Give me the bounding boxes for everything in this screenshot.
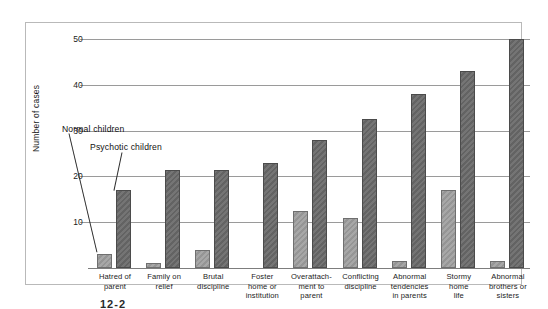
bar-psychotic[interactable]: [165, 170, 180, 268]
bar-normal[interactable]: [343, 218, 358, 268]
category-label-line: parent: [300, 291, 322, 300]
category-label-line: Abnormal: [393, 272, 426, 281]
category-label: Overattach-ment toparent: [283, 272, 339, 301]
category-label-line: institution: [246, 291, 279, 300]
bar-normal[interactable]: [441, 190, 456, 268]
figure-caption: 12-2: [100, 298, 126, 309]
y-axis-title: Number of cases: [31, 85, 41, 152]
annotation-psychotic-children: Psychotic children: [90, 142, 162, 152]
category-label: Abnormalbrothers orsisters: [480, 272, 536, 301]
bar-psychotic[interactable]: [312, 140, 327, 268]
bar-normal[interactable]: [195, 250, 210, 268]
annotation-normal-children: Normal children: [62, 124, 124, 134]
category-label-line: Foster: [251, 272, 273, 281]
category-label: Fosterhome orinstitution: [234, 272, 290, 301]
bar-normal[interactable]: [392, 261, 407, 268]
category-label-line: Overattach-: [291, 272, 332, 281]
bar-psychotic[interactable]: [263, 163, 278, 268]
category-label: Abnormaltendenciesin parents: [382, 272, 438, 301]
category-label-line: brothers or: [489, 282, 527, 291]
bar-psychotic[interactable]: [509, 39, 524, 268]
category-label-line: Family on: [147, 272, 181, 281]
category-label-line: Conflicting: [342, 272, 379, 281]
category-label-line: home: [449, 282, 468, 291]
y-axis-tick-label: 50: [73, 34, 83, 44]
category-label-line: Abnormal: [491, 272, 524, 281]
bar-group: Stormyhomelife: [441, 30, 481, 268]
bar-group: Fosterhome orinstitution: [244, 30, 284, 268]
bar-psychotic[interactable]: [214, 170, 229, 268]
y-axis-tick-label: 40: [73, 80, 83, 90]
bar-group: Brutaldiscipline: [195, 30, 235, 268]
x-axis-baseline: [88, 268, 530, 269]
category-label-line: relief: [156, 282, 173, 291]
figure-root: Number of cases 1020304050Hatred ofparen…: [0, 0, 548, 309]
bar-normal[interactable]: [293, 211, 308, 268]
category-label-line: home or: [248, 282, 277, 291]
category-label-line: discipline: [344, 282, 376, 291]
category-label-line: Stormy: [446, 272, 471, 281]
category-label-line: sisters: [497, 291, 520, 300]
category-label-line: life: [454, 291, 464, 300]
bar-group: Abnormaltendenciesin parents: [392, 30, 432, 268]
category-label-line: discipline: [197, 282, 229, 291]
bar-group: Conflictingdiscipline: [343, 30, 383, 268]
category-label-line: ment to: [298, 282, 324, 291]
bar-group: Overattach-ment toparent: [293, 30, 333, 268]
bar-normal[interactable]: [97, 254, 112, 268]
category-label: Stormyhomelife: [431, 272, 487, 301]
category-label-line: in parents: [392, 291, 426, 300]
category-label: Brutaldiscipline: [185, 272, 241, 291]
bar-normal[interactable]: [490, 261, 505, 268]
category-label-line: Brutal: [203, 272, 223, 281]
bar-psychotic[interactable]: [116, 190, 131, 268]
category-label-line: tendencies: [391, 282, 429, 291]
category-label: Conflictingdiscipline: [333, 272, 389, 291]
category-label-line: parent: [104, 282, 126, 291]
bar-group: Abnormalbrothers orsisters: [490, 30, 530, 268]
bar-normal[interactable]: [146, 263, 161, 268]
bar-psychotic[interactable]: [362, 119, 377, 268]
category-label: Family onrelief: [136, 272, 192, 291]
category-label: Hatred ofparent: [87, 272, 143, 291]
category-label-line: Hatred of: [99, 272, 131, 281]
bar-psychotic[interactable]: [460, 71, 475, 268]
bar-psychotic[interactable]: [411, 94, 426, 268]
y-axis-tick-label: 10: [73, 217, 83, 227]
